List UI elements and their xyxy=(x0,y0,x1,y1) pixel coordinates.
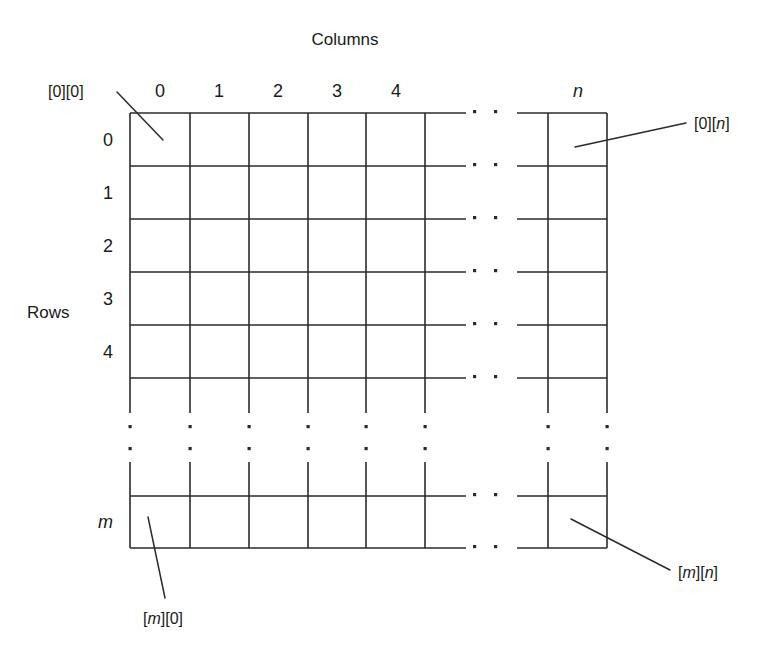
column-header-3: 3 xyxy=(332,81,342,101)
callout-top-right-text: [0][n] xyxy=(694,115,730,132)
callout-top-left-text: [0][0] xyxy=(48,83,84,100)
column-header-0: 0 xyxy=(155,81,165,101)
callout-bottom-right-text: [m][n] xyxy=(678,564,718,581)
array-diagram: Columns Rows 0 1 2 3 4 n 0 1 2 3 4 m xyxy=(0,0,772,656)
callout-bottom-left-text: [m][0] xyxy=(143,610,183,627)
columns-axis-title: Columns xyxy=(311,30,378,49)
row-header-4: 4 xyxy=(103,342,113,362)
array-diagram-svg: Columns Rows 0 1 2 3 4 n 0 1 2 3 4 m xyxy=(0,0,772,656)
row-header-m: m xyxy=(98,512,113,532)
leader-line-top-right xyxy=(575,123,686,147)
rows-axis-title: Rows xyxy=(27,303,70,322)
column-header-1: 1 xyxy=(214,81,224,101)
column-header-2: 2 xyxy=(273,81,283,101)
column-header-n: n xyxy=(573,81,583,101)
callout-bottom-right: [m][n] xyxy=(678,564,718,581)
leader-line-bottom-left xyxy=(148,517,165,598)
horizontal-ellipsis-group xyxy=(473,110,497,548)
row-header-0: 0 xyxy=(103,130,113,150)
row-header-3: 3 xyxy=(103,289,113,309)
vertical-ellipsis-group xyxy=(129,425,609,450)
callout-top-left: [0][0] xyxy=(48,83,84,100)
callout-bottom-left: [m][0] xyxy=(143,610,183,627)
row-header-2: 2 xyxy=(103,236,113,256)
column-header-4: 4 xyxy=(391,81,401,101)
callout-top-right: [0][n] xyxy=(694,115,730,132)
row-header-1: 1 xyxy=(103,183,113,203)
leader-line-bottom-right xyxy=(571,519,670,570)
